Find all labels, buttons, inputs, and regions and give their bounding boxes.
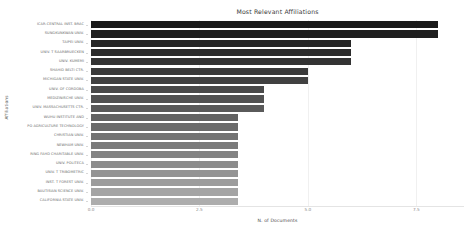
bar bbox=[91, 123, 238, 130]
x-tick-label: 0.0 bbox=[88, 207, 95, 212]
y-tick-mark bbox=[86, 53, 88, 54]
x-tick-label: 5.0 bbox=[305, 207, 312, 212]
bar bbox=[91, 95, 264, 102]
y-tick-mark bbox=[86, 108, 88, 109]
bar-fill bbox=[91, 30, 438, 37]
y-tick-mark bbox=[86, 99, 88, 100]
y-tick-mark bbox=[86, 201, 88, 202]
x-gridline bbox=[416, 20, 417, 206]
y-tick-label: UNIV. MASSACHUSETTS CTR. bbox=[33, 106, 84, 110]
plot-area bbox=[91, 20, 464, 206]
y-tick-mark bbox=[86, 118, 88, 119]
bar-fill bbox=[91, 133, 238, 140]
x-axis-line bbox=[91, 206, 464, 207]
bar-fill bbox=[91, 170, 238, 177]
x-tick-label: 7.5 bbox=[413, 207, 420, 212]
y-tick-label: SUNGKUNKWAN UNIV. bbox=[45, 32, 84, 36]
y-tick-label: MEDIZINISCHE UNIV. bbox=[47, 97, 84, 101]
x-gridline bbox=[308, 20, 309, 206]
y-tick-mark bbox=[86, 146, 88, 147]
bar-fill bbox=[91, 151, 238, 158]
y-tick-mark bbox=[86, 155, 88, 156]
bar-fill bbox=[91, 58, 351, 65]
bar-fill bbox=[91, 142, 238, 149]
y-tick-label: TAIPEI UNIV. bbox=[62, 41, 84, 45]
bar-fill bbox=[91, 49, 351, 56]
y-tick-mark bbox=[86, 183, 88, 184]
y-tick-label: UNIV. KUMEMI bbox=[59, 60, 84, 64]
bar-fill bbox=[91, 68, 308, 75]
y-tick-label: UNIV. POLITECA bbox=[56, 162, 84, 166]
y-tick-mark bbox=[86, 62, 88, 63]
bar bbox=[91, 188, 238, 195]
y-tick-mark bbox=[86, 164, 88, 165]
bar-chart: Most Relevant Affiliations Affiliations … bbox=[0, 0, 464, 233]
bar bbox=[91, 40, 351, 47]
y-tick-mark bbox=[86, 71, 88, 72]
bar-fill bbox=[91, 188, 238, 195]
y-tick-label: INST. T FOREST UNIV. bbox=[46, 181, 84, 185]
y-tick-label: MICHIGAN STATE UNIV. bbox=[43, 78, 84, 82]
bar bbox=[91, 198, 238, 205]
bar bbox=[91, 133, 238, 140]
bar bbox=[91, 151, 238, 158]
bar-fill bbox=[91, 105, 264, 112]
bar bbox=[91, 49, 351, 56]
bar bbox=[91, 21, 438, 28]
y-tick-mark bbox=[86, 43, 88, 44]
y-tick-mark bbox=[86, 34, 88, 35]
bar-fill bbox=[91, 161, 238, 168]
y-tick-label: RING FAHD CHARITABLE UNIV. bbox=[30, 153, 84, 157]
bar bbox=[91, 142, 238, 149]
y-tick-mark bbox=[86, 192, 88, 193]
y-tick-mark bbox=[86, 173, 88, 174]
y-tick-mark bbox=[86, 90, 88, 91]
bar-fill bbox=[91, 86, 264, 93]
chart-title: Most Relevant Affiliations bbox=[91, 8, 464, 15]
y-tick-label: UNIV. T SAARBRUECKEN bbox=[41, 51, 84, 55]
y-tick-label: PO AGRICULTURE TECHNOLOGY bbox=[27, 125, 84, 129]
bar-fill bbox=[91, 198, 238, 205]
y-tick-label: CALIFORNIA STATE UNIV. bbox=[40, 199, 84, 203]
y-tick-label: UNIV. OF CORDOBA bbox=[49, 88, 84, 92]
bar bbox=[91, 86, 264, 93]
y-tick-label: UNIV. T TRIBOMETRIC bbox=[45, 171, 84, 175]
bar bbox=[91, 114, 238, 121]
y-tick-mark bbox=[86, 80, 88, 81]
bar bbox=[91, 30, 438, 37]
bar bbox=[91, 77, 308, 84]
bar-fill bbox=[91, 77, 308, 84]
y-axis-tick-labels: ICAR-CENTRAL INST. BRACSUNGKUNKWAN UNIV.… bbox=[0, 20, 88, 206]
y-tick-mark bbox=[86, 25, 88, 26]
y-tick-label: ICAR-CENTRAL INST. BRAC bbox=[37, 23, 84, 27]
x-axis-label: N. of Documents bbox=[91, 218, 464, 223]
y-tick-label: SHAHID BELTI CTR. bbox=[50, 69, 84, 73]
bar-fill bbox=[91, 123, 238, 130]
bar bbox=[91, 161, 238, 168]
x-gridline bbox=[199, 20, 200, 206]
y-tick-label: NEWHAM UNIV. bbox=[57, 144, 84, 148]
y-tick-label: WUHU INSTITUTE AND bbox=[44, 116, 84, 120]
bar bbox=[91, 68, 308, 75]
bar bbox=[91, 105, 264, 112]
y-tick-label: CHRISTIAN UNIV. bbox=[54, 134, 84, 138]
bar bbox=[91, 58, 351, 65]
bar bbox=[91, 170, 238, 177]
bar-fill bbox=[91, 40, 351, 47]
bar bbox=[91, 179, 238, 186]
x-gridline bbox=[91, 20, 92, 206]
y-tick-mark bbox=[86, 127, 88, 128]
bar-fill bbox=[91, 114, 238, 121]
y-tick-mark bbox=[86, 136, 88, 137]
y-tick-label: BAUTISIAN SCIENCE UNIV. bbox=[37, 190, 84, 194]
bar-fill bbox=[91, 179, 238, 186]
bar-fill bbox=[91, 95, 264, 102]
x-tick-label: 2.5 bbox=[196, 207, 203, 212]
bar-fill bbox=[91, 21, 438, 28]
